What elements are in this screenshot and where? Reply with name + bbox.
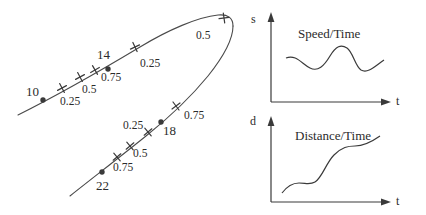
node-label-22: 22 xyxy=(96,179,109,192)
figure-canvas: 10 14 18 22 0.25 0.5 0.75 0.25 0.5 0.75 … xyxy=(0,0,426,215)
param-label-apex-05: 0.5 xyxy=(196,30,210,42)
distance-time-y-axis-arrow xyxy=(268,116,275,126)
node-label-18: 18 xyxy=(163,124,176,137)
speed-time-x-axis-arrow xyxy=(381,99,391,106)
speed-time-x-axis-label: t xyxy=(396,95,399,107)
speed-time-y-axis-label: s xyxy=(251,13,256,25)
cross-marker-apex xyxy=(218,12,229,23)
distance-time-x-axis-label: t xyxy=(396,195,399,207)
distance-time-chart-title: Distance/Time xyxy=(295,129,371,142)
param-label-lower-075b: 0.75 xyxy=(113,162,133,174)
param-label-upper-025b: 0.25 xyxy=(140,58,160,70)
cross-marker xyxy=(88,63,102,77)
trajectory-lower-branch xyxy=(70,26,233,196)
param-label-upper-05: 0.5 xyxy=(82,84,96,96)
cross-marker xyxy=(55,81,69,95)
param-label-lower-075: 0.75 xyxy=(184,110,204,122)
param-label-upper-025: 0.25 xyxy=(60,96,80,108)
param-label-lower-05: 0.5 xyxy=(133,148,147,160)
node-label-14: 14 xyxy=(97,48,110,61)
node-label-10: 10 xyxy=(26,85,39,98)
speed-time-y-axis-arrow xyxy=(268,12,275,22)
speed-time-curve xyxy=(286,46,384,71)
param-label-lower-025: 0.25 xyxy=(123,120,143,132)
distance-time-x-axis-arrow xyxy=(381,199,391,206)
param-label-upper-075: 0.75 xyxy=(101,72,121,84)
dot-marker xyxy=(40,97,45,102)
speed-time-chart-title: Speed/Time xyxy=(298,27,360,40)
dot-marker xyxy=(99,169,104,174)
distance-time-y-axis-label: d xyxy=(250,115,256,127)
distance-time-curve xyxy=(282,136,380,193)
figure-vector-layer xyxy=(0,0,426,215)
